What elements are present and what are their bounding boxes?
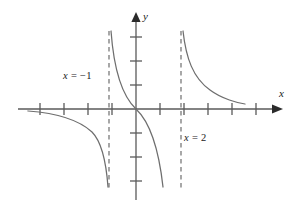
y-axis-label: y [143, 10, 148, 22]
asymptote-label-right: x = 2 [184, 132, 207, 143]
curve-branch-left [28, 111, 108, 187]
x-axis-arrowhead [272, 104, 283, 113]
asymptote-label-right-value: = 2 [189, 132, 207, 143]
graph-canvas [0, 0, 297, 212]
axes-group [18, 12, 283, 200]
asymptote-label-left-value: = −1 [68, 70, 92, 81]
x-axis-label: x [279, 87, 284, 99]
asymptote-label-left: x = −1 [63, 70, 92, 81]
rational-function-figure: x = −1 x = 2 x y [0, 0, 297, 212]
curve-branch-right [183, 31, 245, 104]
asymptotes-group [109, 31, 181, 190]
y-axis-arrowhead [131, 12, 140, 22]
